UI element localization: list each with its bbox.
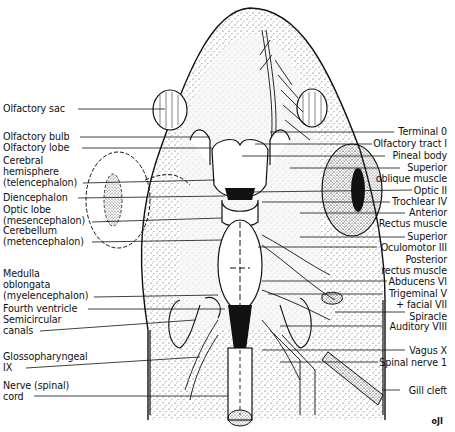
label-text: Posterior <box>381 254 447 265</box>
label-spinal-nerve-1: Spinal nerve 1 <box>379 357 447 368</box>
label-fourth-ventricle: Fourth ventricle <box>3 303 77 314</box>
label-text: Fourth ventricle <box>3 303 77 314</box>
label-optic-lobe: Optic lobe (mesencephalon) <box>3 204 85 226</box>
label-text: IX <box>3 362 88 373</box>
label-text: Olfactory tract I <box>373 138 447 149</box>
label-text: oblongata <box>3 279 88 290</box>
label-trigeminal-facial: Trigeminal V + facial VII <box>389 288 447 310</box>
label-text: (metencephalon) <box>3 236 84 247</box>
label-semicircular-canals: Semicircular canals <box>3 314 61 336</box>
label-text: canals <box>3 325 61 336</box>
label-pineal-body: Pineal body <box>393 150 447 161</box>
label-cerebral-hemisphere: Cerebral hemisphere (telencephalon) <box>3 155 77 188</box>
label-text: Superior <box>407 231 447 242</box>
label-text: Nerve (spinal) <box>3 380 69 391</box>
label-text: oblique muscle <box>376 173 447 184</box>
label-text: Oculomotor III <box>381 242 447 253</box>
label-posterior-rectus: Posterior rectus muscle <box>381 254 447 276</box>
label-medulla-oblongata: Medulla oblongata (myelencephalon) <box>3 268 88 301</box>
label-text: Optic II <box>414 185 447 196</box>
label-spinal-cord: Nerve (spinal) cord <box>3 380 69 402</box>
label-oculomotor-iii: Oculomotor III <box>381 242 447 253</box>
label-anterior-rectus: Anterior Rectus muscle <box>379 207 447 229</box>
label-text: Vagus X <box>409 345 447 356</box>
label-olfactory-bulb: Olfactory bulb <box>3 131 70 142</box>
label-text: (myelencephalon) <box>3 290 88 301</box>
label-text: hemisphere <box>3 166 77 177</box>
label-text: Spinal nerve 1 <box>379 357 447 368</box>
label-trochlear-iv: Trochlear IV <box>392 196 447 207</box>
label-text: Auditory VIII <box>390 321 447 332</box>
label-abducens-vi: Abducens VI <box>389 276 447 287</box>
label-text: Cerebral <box>3 155 77 166</box>
label-text: Cerebellum <box>3 225 84 236</box>
label-text: Superior <box>376 162 447 173</box>
label-diencephalon: Diencephalon <box>3 192 68 203</box>
label-cerebellum: Cerebellum (metencephalon) <box>3 225 84 247</box>
label-text: Diencephalon <box>3 192 68 203</box>
label-glossopharyngeal: Glossopharyngeal IX <box>3 351 88 373</box>
label-text: rectus muscle <box>381 265 447 276</box>
label-olfactory-lobe: Olfactory lobe <box>3 142 69 153</box>
label-text: Rectus muscle <box>379 218 447 229</box>
label-superior-oblique: Superior oblique muscle <box>376 162 447 184</box>
label-text: Glossopharyngeal <box>3 351 88 362</box>
label-text: Trigeminal V <box>389 288 447 299</box>
label-text: Olfactory sac <box>3 103 65 114</box>
label-text: Olfactory lobe <box>3 142 69 153</box>
label-text: Terminal 0 <box>398 126 447 137</box>
label-olfactory-sac: Olfactory sac <box>3 103 65 114</box>
label-terminal-0: Terminal 0 <box>398 126 447 137</box>
label-text: Optic lobe <box>3 204 85 215</box>
label-text: Semicircular <box>3 314 61 325</box>
label-text: Medulla <box>3 268 88 279</box>
label-text: Anterior <box>379 207 447 218</box>
label-text: Pineal body <box>393 150 447 161</box>
label-text: Trochlear IV <box>392 196 447 207</box>
label-gill-cleft: Gill cleft <box>409 385 447 396</box>
label-auditory-viii: Auditory VIII <box>390 321 447 332</box>
label-text: Gill cleft <box>409 385 447 396</box>
label-text: Olfactory bulb <box>3 131 70 142</box>
label-optic-ii: Optic II <box>414 185 447 196</box>
label-superior-rectus: Superior <box>407 231 447 242</box>
figure-number: oJI <box>432 417 443 426</box>
label-text: Abducens VI <box>389 276 447 287</box>
label-olfactory-tract: Olfactory tract I <box>373 138 447 149</box>
label-text: cord <box>3 391 69 402</box>
label-text: + facial VII <box>389 299 447 310</box>
right-eye <box>322 144 382 236</box>
label-vagus-x: Vagus X <box>409 345 447 356</box>
label-text: (telencephalon) <box>3 177 77 188</box>
